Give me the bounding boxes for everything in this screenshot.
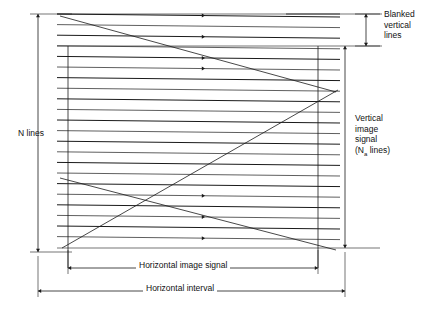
n-lines-dimension-arrow-bottom — [36, 249, 40, 252]
scan-direction-arrow — [202, 236, 205, 240]
horizontal-image-signal-dimension-arrow-right — [315, 266, 318, 270]
scan-line — [57, 237, 340, 240]
scan-line — [57, 173, 340, 176]
scan-line — [57, 205, 340, 208]
horizontal-interval-dimension-arrow-left — [38, 289, 41, 293]
scan-direction-arrow — [202, 67, 205, 71]
vsig-line-2: image — [355, 124, 378, 134]
horizontal-retrace-line — [60, 178, 336, 250]
label-horizontal-image-signal: Horizontal image signal — [136, 260, 230, 271]
scan-line — [57, 141, 340, 144]
label-blanked-vertical-lines: Blankedverticallines — [384, 9, 415, 41]
blanked-line-2: vertical — [384, 20, 411, 30]
guide-line-group — [57, 14, 380, 268]
scan-line — [57, 120, 340, 123]
horizontal-interval-dimension-arrow-right — [342, 289, 345, 293]
vertical-image-signal-dimension-arrow-bottom — [343, 245, 347, 248]
scan-line — [57, 215, 340, 218]
scan-line — [57, 194, 340, 197]
scan-direction-arrow — [202, 35, 205, 39]
raster-scan-diagram: N lines Blankedverticallines Verticalima… — [0, 0, 442, 314]
scan-line — [57, 35, 340, 38]
scan-line — [57, 131, 340, 134]
scan-line — [57, 14, 340, 17]
scan-line — [57, 184, 340, 187]
vsig-line-4-prefix: (N — [355, 145, 364, 155]
blanked-line-1: Blanked — [384, 9, 415, 19]
scan-line-group — [57, 14, 340, 241]
scan-line — [57, 67, 340, 70]
vsig-line-4-suffix: lines) — [367, 145, 390, 155]
scan-line — [57, 88, 340, 91]
label-n-lines: N lines — [18, 128, 44, 139]
scan-direction-arrow — [202, 56, 205, 60]
scan-line — [57, 109, 340, 112]
vertical-retrace-line — [62, 90, 338, 248]
blanked-line-3: lines — [384, 30, 401, 40]
horizontal-image-signal-dimension-arrow-left — [68, 266, 71, 270]
n-lines-dimension-arrow-top — [36, 14, 40, 17]
vertical-image-signal-dimension-arrow-top — [343, 46, 347, 49]
scan-line — [57, 99, 340, 102]
scan-line — [57, 78, 340, 81]
scan-line — [57, 56, 340, 59]
label-vertical-image-signal: Verticalimagesignal(Na lines) — [355, 113, 390, 159]
scan-line — [57, 152, 340, 155]
scan-direction-arrow — [202, 194, 205, 198]
scan-line — [57, 162, 340, 165]
vsig-line-3: signal — [355, 134, 377, 144]
label-horizontal-interval: Horizontal interval — [143, 283, 217, 294]
blanked-lines-dimension-arrow-bottom — [364, 43, 368, 46]
blanked-lines-dimension-arrow-top — [364, 14, 368, 17]
vsig-line-1: Vertical — [355, 113, 383, 123]
